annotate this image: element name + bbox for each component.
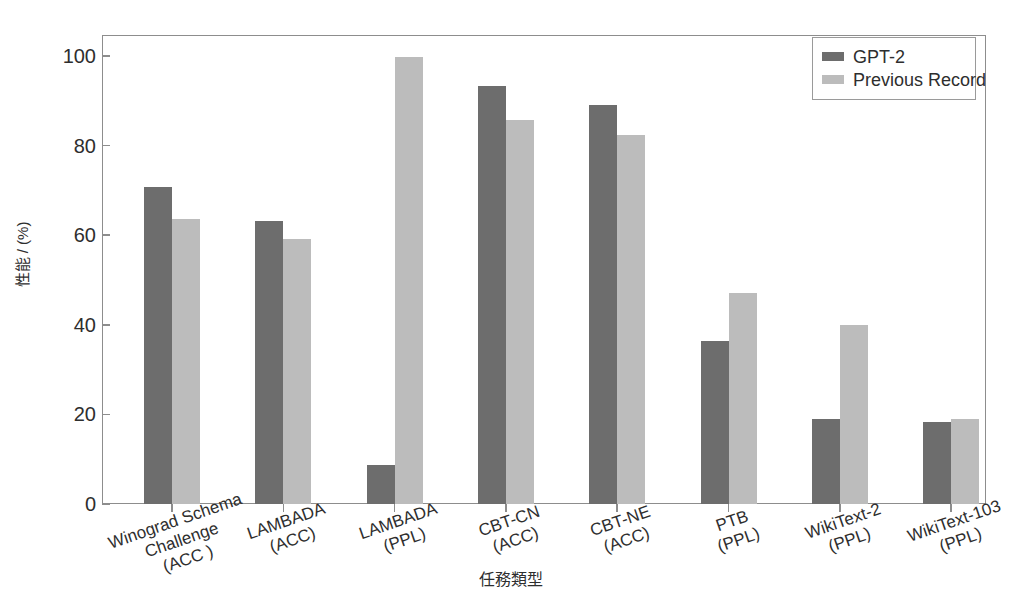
bar: [701, 341, 729, 504]
bar: [617, 135, 645, 504]
bars-layer: [102, 35, 986, 504]
bar-chart: 性能 / (%) 020406080100 Winograd Schema Ch…: [0, 0, 1021, 604]
x-axis-title: 任務類型: [0, 566, 1021, 590]
y-axis-tick-label: 40: [0, 315, 96, 335]
y-axis-tick-label: 60: [0, 225, 96, 245]
bar: [395, 57, 423, 504]
bar: [729, 293, 757, 504]
y-axis-tick-label: 100: [0, 46, 96, 66]
bar: [144, 187, 172, 504]
legend-item: Previous Record: [822, 68, 966, 91]
y-axis-tick-label: 80: [0, 136, 96, 156]
bar: [951, 419, 979, 504]
y-axis-title: 性能 / (%): [14, 185, 31, 325]
legend-swatch-gpt-2: [822, 52, 844, 61]
chart-legend: GPT-2 Previous Record: [812, 37, 976, 100]
bar: [589, 105, 617, 504]
bar: [172, 219, 200, 504]
legend-label-gpt-2: GPT-2: [853, 47, 905, 67]
y-axis-tick-label: 0: [0, 494, 96, 514]
legend-swatch-previous-record: [822, 75, 844, 84]
legend-label-previous-record: Previous Record: [853, 70, 986, 90]
bar: [478, 86, 506, 504]
bar: [255, 221, 283, 504]
bar: [283, 239, 311, 504]
y-axis-tick-label: 20: [0, 404, 96, 424]
legend-item: GPT-2: [822, 45, 966, 68]
bar: [506, 120, 534, 504]
bar: [840, 325, 868, 504]
